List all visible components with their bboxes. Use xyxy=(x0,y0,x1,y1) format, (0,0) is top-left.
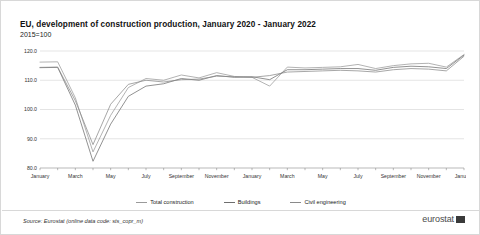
brand-wordmark: eurostat xyxy=(422,214,454,224)
x-tick-label: January xyxy=(455,173,466,179)
y-tick-label: 80.0 xyxy=(27,165,37,171)
x-axis-group xyxy=(40,168,464,170)
y-axis-tick-labels: 80.090.0100.0110.0120.0 xyxy=(24,48,37,171)
y-tick-label: 90.0 xyxy=(27,136,37,142)
legend-item-civil-engineering[interactable]: Civil engineering xyxy=(290,199,345,205)
series-line-buildings xyxy=(40,55,464,161)
legend-swatch-total-construction xyxy=(136,202,147,203)
legend-item-total-construction[interactable]: Total construction xyxy=(136,199,194,205)
x-tick-label: January xyxy=(243,173,262,179)
legend-label-buildings: Buildings xyxy=(238,199,261,205)
x-tick-label: May xyxy=(318,173,328,179)
eurostat-logo-icon xyxy=(456,216,465,223)
x-tick-label: July xyxy=(141,173,151,179)
plot-area: 80.090.0100.0110.0120.0 JanuaryMarchMayJ… xyxy=(19,48,466,190)
y-tick-label: 120.0 xyxy=(24,48,37,54)
footer-divider xyxy=(2,210,480,211)
chart-figure: EU, development of construction producti… xyxy=(0,0,480,235)
x-tick-label: September xyxy=(381,173,407,179)
series-line-civil-engineering xyxy=(40,56,464,144)
legend-swatch-civil-engineering xyxy=(290,202,301,203)
x-tick-label: March xyxy=(280,173,295,179)
chart-subtitle: 2015=100 xyxy=(20,31,51,38)
gridlines-group xyxy=(40,51,464,168)
source-note: Source: Eurostat (online data code: sts_… xyxy=(23,218,143,224)
x-tick-label: January xyxy=(31,173,50,179)
line-chart-svg: 80.090.0100.0110.0120.0 JanuaryMarchMayJ… xyxy=(19,48,466,190)
x-tick-label: May xyxy=(106,173,116,179)
y-tick-label: 100.0 xyxy=(24,106,37,112)
x-tick-label: November xyxy=(205,173,229,179)
legend-label-total-construction: Total construction xyxy=(150,199,194,205)
legend-swatch-buildings xyxy=(224,202,235,203)
x-tick-label: July xyxy=(353,173,363,179)
y-tick-label: 110.0 xyxy=(24,77,37,83)
eurostat-brand: eurostat xyxy=(422,214,465,224)
page-title: EU, development of construction producti… xyxy=(20,20,316,29)
chart-legend: Total construction Buildings Civil engin… xyxy=(1,199,480,205)
x-tick-label: March xyxy=(68,173,83,179)
x-tick-label: November xyxy=(417,173,441,179)
x-tick-label: September xyxy=(169,173,195,179)
legend-label-civil-engineering: Civil engineering xyxy=(304,199,345,205)
legend-item-buildings[interactable]: Buildings xyxy=(224,199,261,205)
x-axis-tick-labels: JanuaryMarchMayJulySeptemberNovemberJanu… xyxy=(31,173,466,179)
series-lines-group xyxy=(40,55,464,162)
